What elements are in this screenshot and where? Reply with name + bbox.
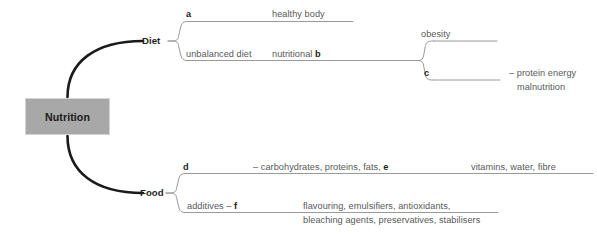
blank-c: c	[424, 68, 429, 79]
mind-map-diagram: Nutrition Diet Food a healthy body unbal…	[0, 0, 597, 237]
leaf-additives-text: additives –	[187, 201, 234, 211]
leaf-protein-energy: – protein energy	[509, 68, 576, 79]
blank-f: f	[234, 201, 237, 211]
branch-label-food: Food	[140, 187, 164, 198]
leaf-macronutrients: – carbohydrates, proteins, fats, e	[253, 162, 389, 173]
blank-e: e	[383, 162, 388, 172]
root-node-nutrition: Nutrition	[25, 98, 110, 135]
leaf-malnutrition: malnutrition	[517, 82, 565, 93]
leaf-macronutrients-text: – carbohydrates, proteins, fats,	[253, 162, 383, 172]
connector-root-to-diet	[68, 41, 144, 97]
leaf-nutritional-b: nutritional b	[272, 49, 321, 60]
leaf-vitamins-water-fibre: vitamins, water, fibre	[471, 162, 556, 173]
leaf-additive-types-line1: flavouring, emulsifiers, antioxidants,	[303, 201, 450, 212]
leaf-unbalanced-diet: unbalanced diet	[186, 49, 252, 60]
blank-b: b	[315, 49, 321, 59]
branch-label-diet: Diet	[142, 35, 160, 46]
blank-a: a	[186, 9, 191, 20]
blank-d: d	[183, 162, 189, 173]
leaf-additives: additives – f	[187, 201, 237, 212]
root-node-label: Nutrition	[26, 99, 109, 134]
leaf-obesity: obesity	[421, 29, 450, 40]
leaf-healthy-body: healthy body	[272, 9, 325, 20]
connector-root-to-food	[68, 136, 144, 193]
leaf-additive-types-line2: bleaching agents, preservatives, stabili…	[303, 215, 480, 226]
bracket-food	[166, 174, 188, 213]
leaf-nutritional-text: nutritional	[272, 49, 315, 59]
